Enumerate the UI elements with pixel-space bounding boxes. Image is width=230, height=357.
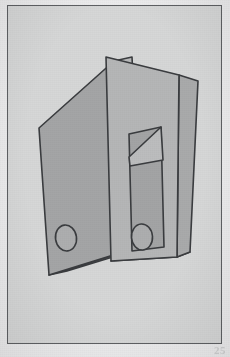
- scanned-page: 25: [0, 0, 230, 357]
- figure-illustration: [8, 6, 223, 345]
- right-binder: [106, 57, 198, 261]
- page-number: 25: [214, 345, 226, 356]
- right-binder-side-face: [177, 75, 198, 257]
- illustration-plate: [7, 5, 222, 344]
